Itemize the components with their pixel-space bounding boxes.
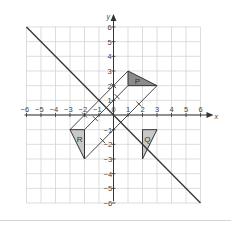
x-tick-label: 6 bbox=[199, 105, 203, 114]
x-tick-label: 4 bbox=[170, 105, 174, 114]
x-tick-label: −4 bbox=[50, 105, 59, 114]
x-axis-arrow-icon bbox=[207, 112, 214, 118]
x-tick-label: −6 bbox=[21, 105, 30, 114]
x-axis-label: x bbox=[214, 113, 219, 120]
triangle-label-r: R bbox=[77, 135, 83, 144]
x-tick-label: −1 bbox=[93, 105, 102, 114]
x-tick-label: −5 bbox=[35, 105, 44, 114]
y-axis-arrow-icon bbox=[111, 14, 117, 21]
y-tick-label: −1 bbox=[104, 126, 113, 135]
x-tick-label: 1 bbox=[126, 105, 130, 114]
y-tick-label: 5 bbox=[108, 38, 112, 47]
y-tick-label: −4 bbox=[104, 170, 113, 179]
y-axis-label: y bbox=[106, 13, 111, 21]
y-tick-label: −5 bbox=[104, 184, 113, 193]
x-tick-label: 3 bbox=[155, 105, 159, 114]
x-tick-label: 5 bbox=[184, 105, 188, 114]
x-tick-label: −3 bbox=[64, 105, 73, 114]
divider bbox=[0, 220, 231, 221]
y-tick-label: −2 bbox=[104, 140, 113, 149]
y-tick-label: 6 bbox=[108, 23, 112, 32]
coordinate-grid: xy−6−5−4−3−2−10123456−6−5−4−3−2−1123456P… bbox=[0, 0, 231, 226]
y-tick-label: 3 bbox=[108, 67, 112, 76]
x-tick-label: 0 bbox=[112, 105, 116, 114]
y-tick-label: −6 bbox=[104, 199, 113, 208]
y-tick-label: −3 bbox=[104, 155, 113, 164]
triangle-label-q: Q bbox=[144, 135, 150, 144]
coordinate-diagram: xy−6−5−4−3−2−10123456−6−5−4−3−2−1123456P… bbox=[0, 0, 231, 226]
y-tick-label: 4 bbox=[108, 52, 112, 61]
triangle-label-p: P bbox=[135, 77, 140, 86]
